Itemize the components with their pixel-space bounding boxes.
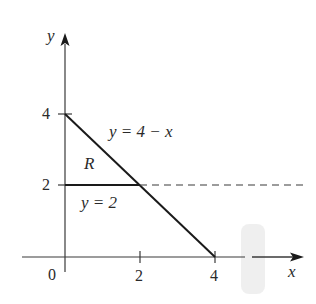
- curve-label-y-equals-4-minus-x: y = 4 − x: [107, 122, 173, 141]
- region-label-r: R: [83, 154, 95, 173]
- scan-artifact: [241, 224, 265, 294]
- x-tick-label-4: 4: [210, 267, 218, 284]
- x-tick-label-2: 2: [135, 267, 143, 284]
- y-axis-label: y: [45, 26, 55, 45]
- region-diagram: y x 0 2 4 4 2 y = 4 − x R y = 2: [0, 0, 316, 304]
- y-tick-label-4: 4: [42, 105, 50, 122]
- y-tick-label-2: 2: [42, 176, 50, 193]
- y-axis: [58, 33, 72, 272]
- x-axis-label: x: [287, 262, 296, 281]
- origin-label: 0: [48, 266, 56, 283]
- curve-label-y-equals-2: y = 2: [79, 193, 118, 212]
